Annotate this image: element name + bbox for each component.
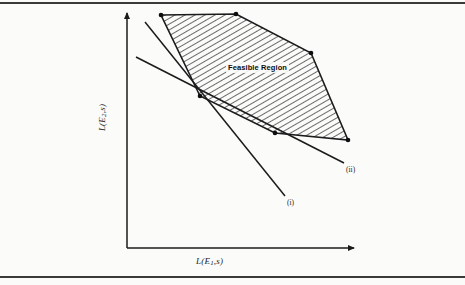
x-axis-label: L(E1,s) [196,256,223,267]
y-axis-label-paren-close: ) [97,104,107,107]
y-axis-label-var: E [97,117,107,123]
y-axis-label-arg: s [97,107,107,111]
constraint-line-i-label: (i) [286,198,295,207]
textbook-figure: Feasible Region (i) (ii) L(E1,s) L(E2,s) [0,0,465,285]
feasible-region-plot [0,0,465,285]
y-axis-label-paren-open: ( [97,123,107,126]
y-axis-label-subscript: 2 [100,113,108,117]
y-axis-label-fn: L [97,126,107,131]
x-axis-label-paren-close: ) [220,256,223,266]
y-axis-label-comma: , [97,111,107,113]
y-axis-label: L(E2,s) [97,78,108,158]
feasible-region-label: Feasible Region [226,62,289,73]
constraint-line-ii-label: (ii) [345,165,356,174]
